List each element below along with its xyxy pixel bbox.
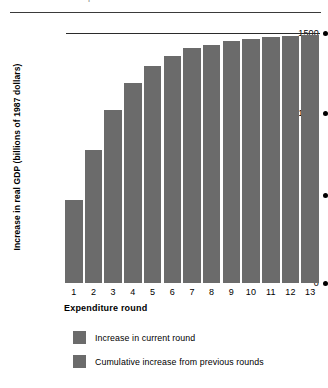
bar	[262, 37, 279, 283]
bar	[124, 83, 141, 283]
x-axis-tick-label: 6	[162, 287, 182, 297]
x-axis-tick-label: 7	[182, 287, 202, 297]
x-axis-tick-label: 13	[300, 287, 320, 297]
x-axis-tick-label: 1	[64, 287, 84, 297]
bar	[164, 56, 181, 283]
x-axis-tick-label: 10	[241, 287, 261, 297]
legend-swatch-icon	[73, 355, 86, 368]
bar	[85, 150, 102, 283]
bar	[144, 66, 161, 283]
bar	[223, 41, 240, 283]
bar	[242, 39, 259, 283]
x-axis-tick-label: 9	[222, 287, 242, 297]
bar	[301, 35, 318, 283]
legend-entry-current-round: Increase in current round	[73, 331, 195, 344]
bar	[104, 110, 121, 283]
x-axis-tick-label: 2	[84, 287, 104, 297]
figure: r Increase in real GDP (billions of 1987…	[0, 0, 328, 388]
bar	[282, 36, 299, 284]
legend-swatch-icon	[73, 331, 86, 344]
chart-plot-area: Increase in real GDP (billions of 1987 d…	[0, 0, 328, 388]
x-axis-tick-label: 3	[103, 287, 123, 297]
bar	[65, 200, 82, 283]
x-axis-tick-label: 8	[202, 287, 222, 297]
bar-series	[0, 0, 328, 283]
x-axis-tick-label: 4	[123, 287, 143, 297]
x-axis-tick-label: 5	[143, 287, 163, 297]
x-axis-label: Expenditure round	[64, 303, 147, 313]
x-axis-tick-label: 12	[281, 287, 301, 297]
bar	[183, 48, 200, 283]
legend-label: Cumulative increase from previous rounds	[95, 357, 264, 367]
x-axis-tick-label: 11	[261, 287, 281, 297]
legend-entry-cumulative: Cumulative increase from previous rounds	[73, 355, 264, 368]
bar	[203, 45, 220, 283]
legend-label: Increase in current round	[95, 333, 195, 343]
